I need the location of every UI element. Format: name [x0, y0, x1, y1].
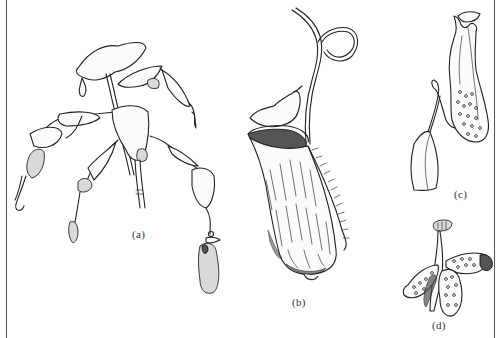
- panel-d-label: (d): [432, 319, 446, 331]
- spotted-pitchers-drawing: [380, 215, 502, 335]
- panel-a-label: (a): [132, 228, 145, 240]
- panel-d-illustration: (d): [380, 215, 502, 335]
- panel-c-label: (c): [454, 188, 467, 200]
- panel-c-illustration: (c): [380, 0, 502, 215]
- panel-b-illustration: (b): [230, 0, 390, 320]
- large-pitcher-drawing: [230, 0, 390, 320]
- panel-a-illustration: (a): [0, 0, 240, 300]
- climbing-plant-drawing: [0, 0, 240, 300]
- leaf-and-pitcher-drawing: [380, 0, 502, 215]
- panel-b-label: (b): [292, 296, 306, 308]
